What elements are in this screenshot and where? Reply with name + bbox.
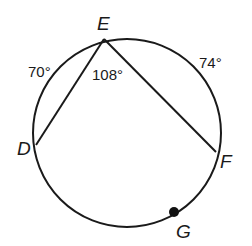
point-g-dot	[169, 207, 179, 217]
circle-diagram: E D F G 70° 108° 74°	[0, 0, 252, 246]
label-point-g: G	[176, 221, 191, 242]
circle	[33, 39, 221, 227]
label-point-d: D	[17, 138, 31, 159]
angle-def-measure: 108°	[92, 66, 123, 83]
label-point-e: E	[97, 13, 110, 34]
arc-de-measure: 70°	[28, 63, 51, 80]
chord-ED	[36, 39, 104, 145]
arc-ef-measure: 74°	[199, 54, 222, 71]
label-point-f: F	[220, 151, 233, 172]
